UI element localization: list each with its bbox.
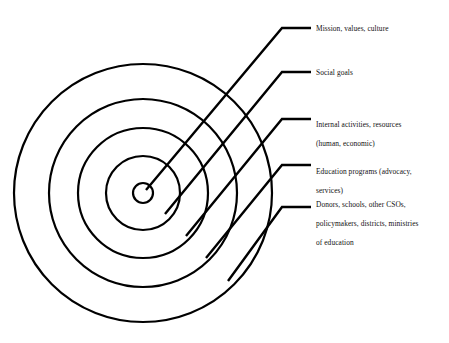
ring-5-outer [14, 64, 272, 322]
ring-label-line-1: Donors, schools, other CSOs, [316, 200, 406, 209]
ring-label-line-3: of education [316, 238, 354, 247]
ring-label-social-goals: Social goals [316, 68, 446, 78]
concentric-rings-group [14, 64, 272, 322]
diagram-root: Mission, values, culture Social goals In… [0, 0, 449, 343]
ring-label-internal-activities-resources: Internal activities, resources (human, e… [316, 110, 446, 148]
ring-label-line-2: policymakers, districts, ministries [316, 219, 419, 228]
ring-label-line-1: Education programs (advocacy, [316, 167, 412, 176]
ring-label-line-2: (human, economic) [316, 139, 375, 148]
ring-3 [78, 128, 208, 258]
ring-label-line-1: Internal activities, resources [316, 120, 402, 129]
ring-label-donors-schools-csos: Donors, schools, other CSOs, policymaker… [316, 190, 449, 248]
leader-line-ring-3 [186, 119, 311, 236]
ring-2 [106, 156, 180, 230]
ring-label-mission-values-culture: Mission, values, culture [316, 24, 446, 34]
